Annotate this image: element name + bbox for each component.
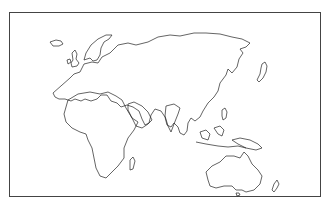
- outline-map: [0, 0, 330, 209]
- scandinavia: [84, 35, 112, 61]
- indonesia: [196, 126, 262, 150]
- tasmania: [236, 193, 240, 196]
- australia: [206, 152, 262, 192]
- philippines: [222, 108, 227, 120]
- british-isles: [67, 50, 79, 67]
- madagascar: [130, 157, 135, 170]
- iceland: [50, 40, 63, 46]
- new-zealand: [272, 180, 279, 192]
- india: [165, 104, 180, 132]
- arabia: [128, 102, 152, 128]
- japan: [257, 62, 267, 82]
